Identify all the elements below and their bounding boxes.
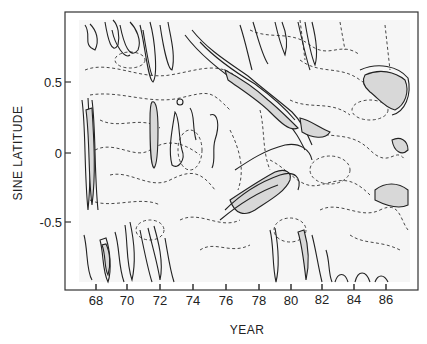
x-tick-label: 82: [315, 292, 329, 307]
contour-field: [79, 20, 410, 282]
x-tick-label: 78: [252, 293, 266, 308]
x-tick-label: 72: [153, 293, 167, 308]
y-tick-label: -0.5: [40, 215, 62, 230]
x-tick-label: 80: [284, 293, 298, 308]
y-axis-title: SINE LATITUDE: [11, 106, 25, 201]
y-axis: 0.5 0 -0.5 SINE LATITUDE: [11, 75, 71, 230]
contour-chart: 0.5 0 -0.5 SINE LATITUDE 68 70 72 74 76 …: [0, 0, 427, 344]
x-tick-label: 84: [347, 292, 361, 307]
y-tick-label: 0.5: [44, 75, 62, 90]
x-tick-label: 74: [186, 293, 200, 308]
y-tick-label: 0: [55, 146, 62, 161]
x-axis: 68 70 72 74 76 78 80 82 84 86 YEAR: [89, 284, 393, 337]
x-tick-label: 76: [219, 293, 233, 308]
x-tick-label: 70: [120, 293, 134, 308]
x-tick-label: 68: [89, 293, 103, 308]
x-tick-label: 86: [379, 292, 393, 307]
x-axis-title: YEAR: [230, 323, 265, 337]
